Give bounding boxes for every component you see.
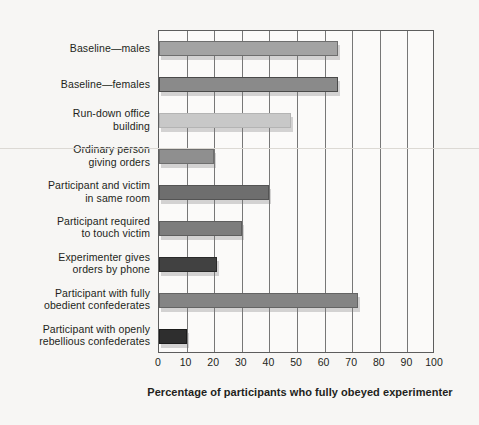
bar-6: [159, 257, 217, 272]
x-tick-label-100: 100: [425, 356, 443, 368]
category-label-line: Participant and victim: [8, 179, 150, 192]
category-label-line: orders by phone: [8, 263, 150, 276]
x-tick-label-50: 50: [290, 356, 302, 368]
category-label-1: Baseline—females: [8, 78, 150, 91]
category-label-0: Baseline—males: [8, 42, 150, 55]
plot-area: [158, 30, 434, 353]
x-tick-label-30: 30: [235, 356, 247, 368]
category-label-line: Run-down office: [8, 107, 150, 120]
bar-3: [159, 149, 214, 164]
category-label-line: Participant with fully: [8, 287, 150, 300]
category-label-2: Run-down officebuilding: [8, 107, 150, 132]
x-tick-label-60: 60: [318, 356, 330, 368]
x-tick-label-10: 10: [180, 356, 192, 368]
category-label-line: Ordinary person: [8, 143, 150, 156]
x-tick-label-0: 0: [155, 356, 161, 368]
category-label-line: Baseline—females: [8, 78, 150, 91]
bar-5: [159, 221, 242, 236]
bar-8: [159, 329, 187, 344]
x-tick-label-80: 80: [373, 356, 385, 368]
bar-1: [159, 77, 338, 92]
x-tick-label-70: 70: [345, 356, 357, 368]
bar-chart-figure: Baseline—malesBaseline—femalesRun-down o…: [0, 0, 479, 425]
category-label-line: building: [8, 120, 150, 133]
category-label-7: Participant with fullyobedient confedera…: [8, 287, 150, 312]
bar-4: [159, 185, 269, 200]
category-label-line: giving orders: [8, 156, 150, 169]
category-label-4: Participant and victimin same room: [8, 179, 150, 204]
category-label-column: Baseline—malesBaseline—femalesRun-down o…: [8, 30, 154, 353]
category-label-line: Baseline—males: [8, 42, 150, 55]
bar-0: [159, 41, 338, 56]
category-label-line: Participant required: [8, 215, 150, 228]
category-label-line: in same room: [8, 192, 150, 205]
category-label-line: obedient confederates: [8, 299, 150, 312]
category-label-3: Ordinary persongiving orders: [8, 143, 150, 168]
x-tick-label-90: 90: [401, 356, 413, 368]
x-tick-label-40: 40: [263, 356, 275, 368]
category-label-line: Participant with openly: [8, 323, 150, 336]
category-label-line: Experimenter gives: [8, 251, 150, 264]
bars-layer: [159, 31, 433, 352]
category-label-5: Participant requiredto touch victim: [8, 215, 150, 240]
x-axis-caption: Percentage of participants who fully obe…: [130, 386, 470, 398]
category-label-line: rebellious confederates: [8, 335, 150, 348]
category-label-line: to touch victim: [8, 227, 150, 240]
x-axis-tick-labels: 0102030405060708090100: [158, 356, 434, 372]
x-tick-label-20: 20: [207, 356, 219, 368]
category-label-8: Participant with openlyrebellious confed…: [8, 323, 150, 348]
bar-7: [159, 293, 358, 308]
category-label-6: Experimenter givesorders by phone: [8, 251, 150, 276]
bar-2: [159, 113, 291, 128]
